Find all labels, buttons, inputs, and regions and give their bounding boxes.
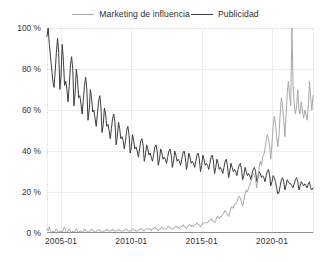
- legend-item-publicidad[interactable]: Publicidad: [191, 9, 259, 19]
- legend-swatch-icon: [72, 14, 94, 15]
- series-line-marketing-de-influencia: [47, 28, 313, 233]
- trends-line-chart: Marketing de influencia Publicidad 0 %20…: [0, 0, 331, 262]
- gridline-vertical-edge: [313, 28, 314, 233]
- y-tick-label: 100 %: [17, 23, 41, 33]
- x-tick-label: 2010-01: [115, 236, 147, 246]
- y-tick-label: 60 %: [22, 105, 41, 115]
- x-tick-label: 2015-01: [186, 236, 218, 246]
- y-tick-label: 0 %: [27, 228, 41, 238]
- series-line-publicidad: [47, 28, 313, 194]
- legend-label: Publicidad: [218, 9, 259, 19]
- chart-legend: Marketing de influencia Publicidad: [0, 6, 331, 22]
- y-axis: 0 %20 %40 %60 %80 %100 %: [0, 28, 45, 233]
- x-tick-label: 2020-01: [256, 236, 288, 246]
- legend-item-marketing-de-influencia[interactable]: Marketing de influencia: [72, 9, 190, 19]
- y-tick-label: 20 %: [22, 187, 41, 197]
- series-layer: [47, 28, 313, 233]
- y-tick-label: 40 %: [22, 146, 41, 156]
- plot-area: [47, 28, 313, 233]
- x-axis: 2005-012010-012015-012020-01: [47, 236, 313, 254]
- legend-label: Marketing de influencia: [99, 9, 190, 19]
- x-tick-label: 2005-01: [45, 236, 77, 246]
- y-tick-label: 80 %: [22, 64, 41, 74]
- x-axis-line: [47, 232, 313, 233]
- legend-swatch-icon: [191, 14, 213, 15]
